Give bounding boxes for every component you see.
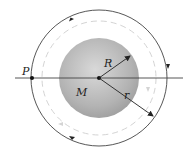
label-M: M xyxy=(75,86,88,99)
orbit-arrow-icon xyxy=(69,18,74,22)
point-p xyxy=(30,76,34,80)
dashed-orbit-arrow-icon xyxy=(146,87,150,92)
dashed-orbit-arrow-icon xyxy=(58,122,63,126)
label-r: r xyxy=(124,89,130,102)
orbit-diagram: P R M r xyxy=(0,0,188,153)
label-R: R xyxy=(103,57,112,70)
label-p: P xyxy=(21,65,30,78)
